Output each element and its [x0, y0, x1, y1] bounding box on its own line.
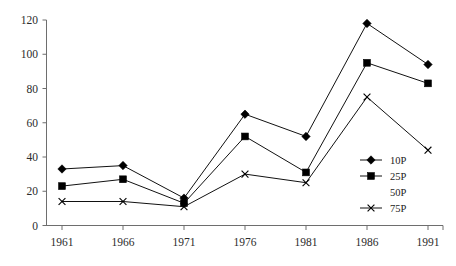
data-point-square	[120, 176, 127, 183]
legend: 10P25P50P75P	[360, 155, 407, 214]
x-axis: 1961196619711976198119861991	[47, 226, 444, 249]
data-point-cross	[425, 147, 432, 154]
x-tick-labels: 1961196619711976198119861991	[51, 236, 440, 248]
x-tick-label: 1961	[51, 236, 74, 248]
data-point-diamond	[424, 60, 432, 68]
y-tick-labels: 020406080100120	[21, 14, 39, 232]
data-point-diamond	[119, 161, 127, 169]
legend-label: 50P	[390, 187, 407, 198]
y-tick-label: 120	[21, 14, 39, 26]
legend-item-10p[interactable]: 10P	[360, 155, 407, 166]
line-chart: 020406080100120 196119661971197619811986…	[0, 0, 456, 266]
legend-label: 75P	[390, 203, 407, 214]
data-point-square	[368, 173, 375, 180]
x-tick-label: 1966	[112, 236, 135, 248]
legend-item-75p[interactable]: 75P	[360, 203, 407, 214]
y-tick-label: 20	[27, 185, 39, 197]
y-tick-label: 80	[27, 83, 39, 95]
y-tick-label: 0	[32, 220, 38, 232]
data-point-diamond	[363, 19, 371, 27]
legend-label: 10P	[390, 155, 407, 166]
y-tick-label: 40	[27, 151, 39, 163]
data-point-diamond	[367, 156, 375, 164]
x-tick-marks	[62, 226, 443, 231]
y-axis: 020406080100120	[21, 14, 47, 232]
y-tick-label: 100	[21, 48, 39, 60]
legend-label: 25P	[390, 171, 407, 182]
x-tick-label: 1971	[173, 236, 196, 248]
data-point-diamond	[302, 132, 310, 140]
x-tick-label: 1976	[234, 236, 257, 248]
y-tick-marks	[43, 20, 47, 226]
data-point-cross	[364, 94, 371, 101]
data-point-square	[364, 59, 371, 66]
data-point-square	[425, 80, 432, 87]
x-tick-label: 1986	[356, 236, 379, 248]
series-25p	[59, 59, 432, 206]
y-tick-label: 60	[27, 117, 39, 129]
legend-item-50p[interactable]: 50P	[390, 187, 407, 198]
x-tick-label: 1991	[417, 236, 440, 248]
data-point-square	[303, 169, 310, 176]
legend-item-25p[interactable]: 25P	[360, 171, 407, 182]
data-point-square	[59, 183, 66, 190]
data-point-diamond	[241, 110, 249, 118]
chart-canvas: 020406080100120 196119661971197619811986…	[0, 0, 456, 266]
data-point-square	[242, 133, 249, 140]
data-point-diamond	[58, 165, 66, 173]
x-tick-label: 1981	[295, 236, 318, 248]
series-layer	[58, 19, 432, 210]
